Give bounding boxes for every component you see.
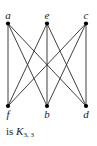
vertex-label-f: f bbox=[6, 108, 11, 120]
vertex-a bbox=[6, 21, 10, 25]
vertex-label-d: d bbox=[83, 108, 89, 120]
graph-subscript: 3, 3 bbox=[23, 131, 34, 139]
vertex-label-c: c bbox=[84, 9, 89, 21]
vertex-label-b: b bbox=[44, 108, 50, 120]
vertex-label-a: a bbox=[5, 9, 11, 21]
vertex-label-e: e bbox=[45, 9, 50, 21]
vertex-c bbox=[84, 21, 88, 25]
vertex-e bbox=[45, 21, 49, 25]
edges-group bbox=[8, 24, 86, 107]
caption-prefix: is bbox=[6, 125, 16, 137]
caption: is K3, 3 bbox=[6, 124, 34, 138]
